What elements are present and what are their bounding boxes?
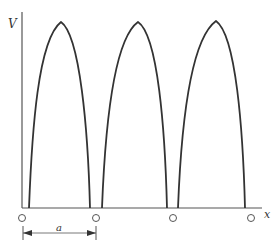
potential-arch-3 bbox=[178, 21, 245, 208]
arrow-right-icon bbox=[87, 230, 96, 236]
arrow-left-icon bbox=[23, 230, 32, 236]
lattice-node-4 bbox=[248, 215, 255, 222]
lattice-node-1 bbox=[19, 215, 26, 222]
potential-diagram: V x a bbox=[0, 0, 280, 252]
lattice-node-2 bbox=[93, 215, 100, 222]
lattice-node-3 bbox=[170, 215, 177, 222]
spacing-label: a bbox=[56, 222, 62, 233]
x-axis-label: x bbox=[264, 208, 271, 221]
y-axis-label: V bbox=[8, 17, 18, 31]
potential-arch-2 bbox=[102, 22, 167, 208]
potential-arch-1 bbox=[29, 22, 90, 208]
